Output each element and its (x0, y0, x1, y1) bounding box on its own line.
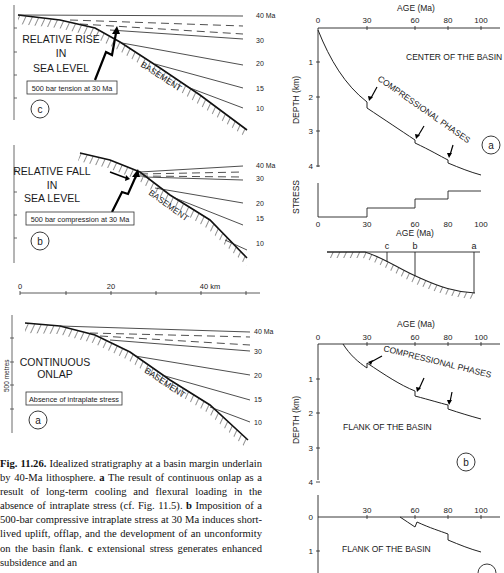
panel-b-title-2: IN (47, 179, 58, 191)
center-ytick-3: 3 (309, 127, 314, 136)
section-label-b: b (412, 241, 417, 251)
flank-c-label-circle (478, 564, 496, 573)
stress-chart: STRESS 0 30 60 80 100 AGE (Ma) (291, 180, 488, 238)
flank-b-xtick-60: 60 (411, 333, 420, 342)
panel-a-basement-label: BASEMENT (143, 365, 187, 399)
flank-b-xtick-80: 80 (444, 333, 453, 342)
panel-b-title-1: RELATIVE FALL (13, 165, 91, 177)
distance-tick-0: 0 (18, 282, 22, 291)
flank-basin-chart-c: 30 60 80 100 0 1 FLANK OF THE BASIN (309, 495, 500, 573)
flank-basin-chart-b: AGE (Ma) 0 30 60 80 100 1 2 3 4 DEPTH (k… (291, 319, 500, 487)
flank-b-xtick-100: 100 (474, 333, 488, 342)
center-xtick-100: 100 (474, 16, 488, 25)
flank-b-annotation: COMPRESSIONAL PHASES (383, 343, 493, 380)
panel-a-continuous-onlap: 500 metres CONTINUOUS ONLAP Absence of i… (3, 315, 274, 448)
center-xtick-80: 80 (444, 16, 453, 25)
panel-b-age-20: 20 (256, 200, 264, 207)
center-ytick-2: 2 (309, 93, 314, 102)
panel-c-basement-label: BASEMENT (139, 59, 184, 93)
flank-c-xtick-100: 100 (474, 506, 488, 515)
stress-xtick-30: 30 (363, 220, 372, 229)
panel-a-stress-box-text: Absence of intraplate stress (29, 395, 119, 404)
figure-caption: Fig. 11.26. Idealized stratigraphy at a … (0, 457, 262, 570)
panel-b-age-15: 15 (256, 215, 264, 222)
panel-c-title-1: RELATIVE RISE (22, 33, 99, 45)
stress-ylabel: STRESS (291, 180, 301, 214)
flank-b-ytick-2: 2 (309, 409, 314, 418)
flank-b-age-title: AGE (Ma) (397, 319, 435, 329)
panel-a-age-40: 40 Ma (254, 328, 274, 335)
panel-b-age-30: 30 (256, 175, 264, 182)
stress-xtick-100: 100 (474, 220, 488, 229)
flank-b-ylabel: DEPTH (km) (291, 396, 301, 444)
flank-b-label: b (463, 457, 469, 468)
center-xtick-60: 60 (411, 16, 420, 25)
panel-a-age-15: 15 (254, 396, 262, 403)
center-xtick-0: 0 (316, 16, 321, 25)
panel-c-stress-box-text: 500 bar tension at 30 Ma (32, 84, 114, 93)
flank-c-xtick-60: 60 (411, 506, 420, 515)
panel-c-relative-rise: RELATIVE RISE IN SEA LEVEL 500 bar tensi… (14, 5, 276, 138)
flank-b-ytick-4: 4 (309, 478, 314, 487)
panel-a-age-10: 10 (254, 419, 262, 426)
panel-c-age-40: 40 Ma (256, 12, 276, 19)
panel-c-age-30: 30 (256, 37, 264, 44)
distance-tick-40: 40 km (200, 282, 220, 291)
center-annotation: COMPRESSIONAL PHASES (376, 73, 473, 145)
center-ytick-1: 1 (309, 58, 314, 67)
section-label-a: a (471, 241, 476, 251)
center-title: CENTER OF THE BASIN (406, 52, 502, 62)
flank-b-ytick-1: 1 (309, 375, 314, 384)
panel-a-label: a (35, 415, 41, 426)
flank-b-ytick-3: 3 (309, 444, 314, 453)
center-basin-chart: AGE (Ma) 0 30 60 80 100 1 2 3 4 DEPTH (k… (291, 3, 502, 175)
panel-c-title-3: SEA LEVEL (33, 62, 89, 74)
panel-c-title-2: IN (56, 47, 67, 59)
panel-b-age-40: 40 Ma (256, 162, 276, 169)
section-label-c: c (385, 241, 390, 251)
stress-xtick-0: 0 (316, 220, 321, 229)
panel-b-age-10: 10 (256, 240, 264, 247)
panel-b-label: b (37, 236, 43, 247)
flank-b-title: FLANK OF THE BASIN (343, 422, 432, 432)
flank-c-ytick-1: 1 (309, 547, 314, 556)
caption-fig-number: Fig. 11.26. (0, 458, 46, 469)
panel-b-relative-fall: RELATIVE FALL IN SEA LEVEL 500 bar compr… (13, 145, 275, 266)
stress-xtick-80: 80 (444, 220, 453, 229)
flank-c-xtick-30: 30 (363, 506, 372, 515)
stress-xlabel: AGE (Ma) (396, 228, 434, 238)
flank-c-title: FLANK OF THE BASIN (342, 544, 431, 554)
panel-c-age-10: 10 (256, 105, 264, 112)
panel-c-label: c (38, 104, 43, 115)
flank-b-xtick-0: 0 (316, 333, 321, 342)
distance-axis: 0 20 40 km (18, 282, 260, 295)
center-ytick-4: 4 (309, 162, 314, 171)
panel-b-title-3: SEA LEVEL (24, 192, 80, 204)
center-ylabel: DEPTH (km) (291, 76, 301, 124)
panel-a-age-30: 30 (254, 348, 262, 355)
distance-tick-20: 20 (107, 282, 115, 291)
flank-c-xtick-80: 80 (444, 506, 453, 515)
panel-a-title-1: CONTINUOUS (20, 356, 91, 368)
panel-c-age-15: 15 (256, 85, 264, 92)
flank-b-xtick-30: 30 (363, 333, 372, 342)
center-label: a (488, 140, 494, 151)
basin-cross-section: c b a (327, 241, 480, 299)
panel-a-title-2: ONLAP (37, 368, 73, 380)
flank-c-ytick-0: 0 (309, 513, 314, 522)
panel-a-age-20: 20 (254, 372, 262, 379)
panel-b-stress-box-text: 500 bar compression at 30 Ma (31, 215, 131, 224)
panel-c-age-20: 20 (256, 60, 264, 67)
center-age-title: AGE (Ma) (397, 3, 435, 13)
center-xtick-30: 30 (363, 16, 372, 25)
panel-a-vertical-scale: 500 metres (3, 359, 10, 392)
